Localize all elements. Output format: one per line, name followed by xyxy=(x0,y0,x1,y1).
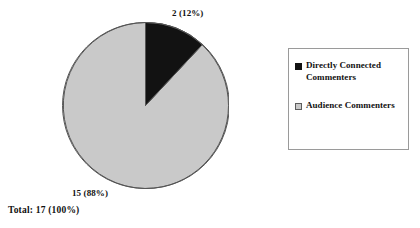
total-label: Total: 17 (100%) xyxy=(8,205,79,215)
legend-label-audience-commenters: Audience Commenters xyxy=(306,100,395,112)
pie-graphic xyxy=(62,22,229,189)
legend-item-directly-connected-commenters[interactable]: Directly Connected Commenters xyxy=(295,60,406,83)
legend-label-directly-connected-commenters: Directly Connected Commenters xyxy=(306,60,406,83)
legend-swatch-icon-audience-commenters xyxy=(295,103,302,110)
legend-list: Directly Connected Commenters Audience C… xyxy=(295,60,406,129)
pie-label-audience-commenters: 15 (88%) xyxy=(72,188,108,198)
legend: Directly Connected Commenters Audience C… xyxy=(288,48,409,150)
pie-chart-figure: 2 (12%) 15 (88%) Total: 17 (100%) Direct… xyxy=(0,0,420,228)
pie-label-directly-connected-commenters: 2 (12%) xyxy=(172,8,203,18)
pie-svg xyxy=(62,22,229,189)
legend-swatch-icon-directly-connected-commenters xyxy=(295,63,302,70)
legend-item-audience-commenters[interactable]: Audience Commenters xyxy=(295,100,406,112)
